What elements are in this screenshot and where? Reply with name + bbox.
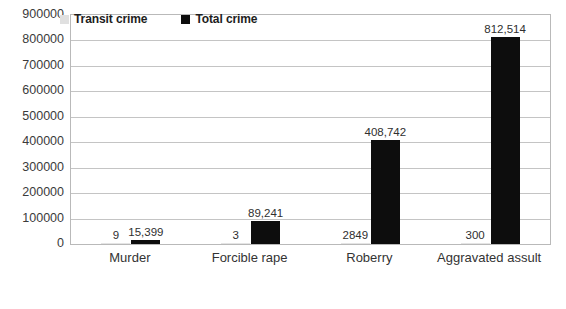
bar-transit [101,243,130,244]
x-axis-category-label: Murder [70,250,190,266]
gridline [71,91,550,92]
gridline [71,117,550,118]
bar-total [491,37,520,244]
gridline [71,219,550,220]
y-axis-tick-label: 900000 [0,8,64,20]
legend-label: Transit crime [74,12,147,26]
bar-transit [341,243,370,244]
bar-value-label: 812,514 [479,23,532,35]
legend-item[interactable]: Transit crime [60,12,147,26]
cropped-title-artifact [0,0,566,9]
y-axis: 9000008000007000006000005000004000003000… [0,0,64,260]
gridline [71,193,550,194]
bar-total [131,240,160,244]
bar-total [371,140,400,244]
gridline [71,168,550,169]
legend-item[interactable]: Total crime [181,12,257,26]
y-axis-tick-label: 800000 [0,33,64,45]
y-axis-tick-label: 300000 [0,161,64,173]
plot-area: 915,399389,2412849408,742300812,514 [70,14,551,245]
x-axis-category-label: Roberry [310,250,430,266]
x-axis-category-label: Aggravated assult [429,250,549,266]
gridline [71,142,550,143]
bar-chart: 9000008000007000006000005000004000003000… [0,0,566,309]
bar-value-label: 15,399 [119,226,172,238]
bar-transit [461,243,490,244]
y-axis-tick-label: 100000 [0,212,64,224]
y-axis-tick-label: 700000 [0,59,64,71]
legend-swatch-total-icon [181,15,190,24]
chart-legend: Transit crimeTotal crime [60,12,257,26]
bar-value-label: 89,241 [239,207,292,219]
legend-swatch-transit-icon [60,15,69,24]
bar-total [251,221,280,244]
y-axis-tick-label: 500000 [0,110,64,122]
bar-transit [221,243,250,244]
y-axis-tick-label: 400000 [0,135,64,147]
bar-value-label: 408,742 [359,126,412,138]
gridline [71,40,550,41]
x-axis: MurderForcible rapeRoberryAggravated ass… [70,250,551,302]
x-axis-category-label: Forcible rape [190,250,310,266]
legend-label: Total crime [195,12,257,26]
y-axis-tick-label: 200000 [0,186,64,198]
y-axis-tick-label: 600000 [0,84,64,96]
gridline [71,66,550,67]
y-axis-tick-label: 0 [0,237,64,249]
